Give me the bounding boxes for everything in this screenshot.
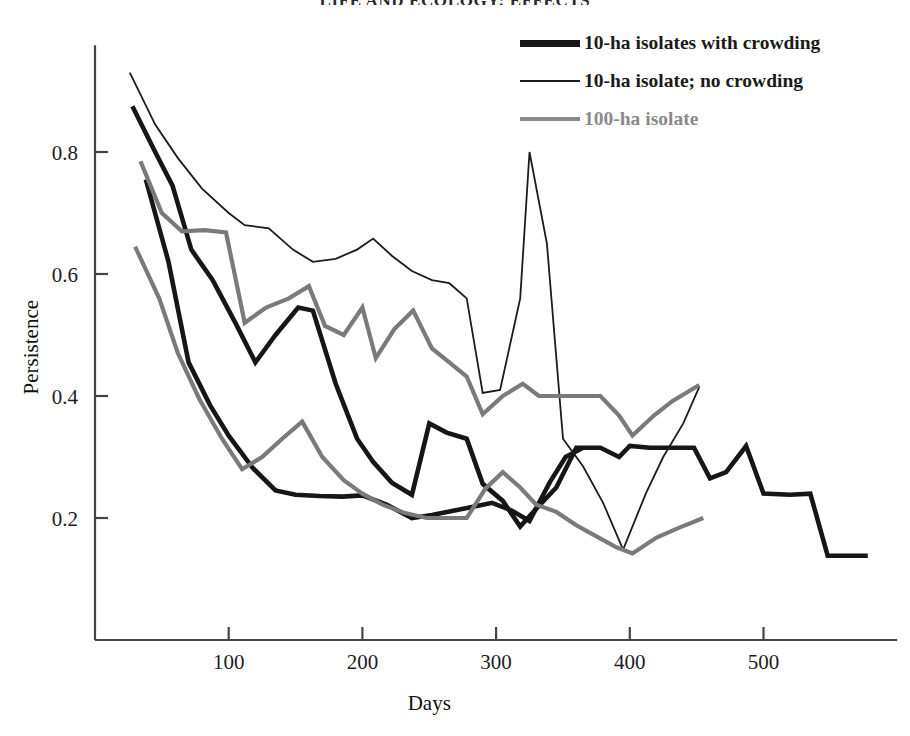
y-axis-tick-label: 0.8 [52,141,78,165]
figure-container: LIFE AND ECOLOGY: EFFECTS 0.20.40.60.810… [0,0,910,736]
x-axis-tick-label: 400 [614,650,646,674]
axis-labels-layer: 0.20.40.60.8100200300400500DaysPersisten… [19,141,779,716]
series-line-0 [132,106,867,556]
y-axis-tick-label: 0.2 [52,507,78,531]
legend-item: 10-ha isolate; no crowding [520,62,910,100]
legend-item-label: 100-ha isolate [584,108,698,130]
legend-swatch-thick-black [520,40,580,47]
x-axis-title: Days [408,691,451,715]
legend-item: 100-ha isolate [520,100,910,138]
y-axis-tick-label: 0.4 [52,385,79,409]
legend-item-label: 10-ha isolate; no crowding [584,70,803,92]
legend-swatch-thin-black [520,80,580,82]
y-axis-title: Persistence [19,300,43,394]
series-layer [130,73,868,556]
legend-item: 10-ha isolates with crowding [520,24,910,62]
x-axis-tick-label: 100 [213,650,245,674]
legend-item-label: 10-ha isolates with crowding [584,32,820,54]
x-axis-tick-label: 200 [347,650,379,674]
y-axis-tick-label: 0.6 [52,263,78,287]
chart-legend: 10-ha isolates with crowding 10-ha isola… [520,24,910,138]
x-axis-tick-label: 500 [748,650,780,674]
x-axis-tick-label: 300 [480,650,512,674]
legend-swatch-gray [520,117,580,121]
